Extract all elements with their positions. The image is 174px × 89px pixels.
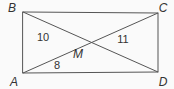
measurement-mc: 11 (117, 33, 128, 45)
intersection-label-m: M (73, 47, 83, 61)
vertex-label-c: C (159, 1, 168, 15)
vertex-label-a: A (9, 75, 18, 89)
diagram-canvas: B C A D M 10 11 8 (0, 0, 174, 89)
measurement-bm: 10 (37, 31, 49, 43)
measurement-am: 8 (54, 59, 60, 71)
geometry-diagram: B C A D M 10 11 8 (0, 0, 174, 89)
vertex-label-b: B (8, 1, 16, 15)
vertex-label-d: D (159, 75, 168, 89)
